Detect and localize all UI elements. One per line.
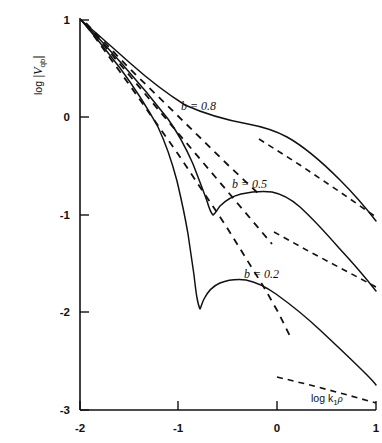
y-tick-marks [80, 20, 89, 410]
y-tick-label-0: 0 [64, 111, 70, 123]
x-axis-title: log k1ρ [311, 392, 343, 407]
curve-label-b08: b = 0.8 [181, 99, 216, 113]
y-axis-title-tail: | [31, 55, 45, 58]
curve-label-b02: b = 0.2 [244, 267, 279, 281]
figure-container: 1 0 -1 -2 -3 -2 -1 0 1 log |Vqb| log k1ρ [0, 0, 382, 443]
x-axis-title-tail: ρ [337, 393, 343, 404]
curve-b05 [81, 20, 376, 291]
curve-annotations: b = 0.8 b = 0.5 b = 0.2 [181, 99, 279, 281]
asymptote-steep-b05-path [86, 24, 272, 244]
asymptote-flat-b05-path [274, 232, 376, 287]
y-tick-label-m2: -2 [60, 306, 70, 318]
y-tick-label-1: 1 [64, 14, 71, 26]
x-tick-label-0: 0 [274, 422, 280, 434]
y-tick-label-m3: -3 [60, 404, 70, 416]
y-axis-title: log |Vqb| [31, 55, 47, 95]
x-axis-title-text: log k1ρ [311, 392, 343, 407]
x-axis-title-prefix: log k [311, 392, 334, 404]
asymptote-flat-b08-path [259, 139, 376, 217]
curve-b02 [81, 20, 376, 385]
y-axis-title-text: log |Vqb| [31, 55, 47, 95]
curve-b08 [81, 20, 376, 221]
x-tick-labels: -2 -1 0 1 [75, 422, 380, 434]
axis-group [80, 18, 376, 410]
y-tick-labels: 1 0 -1 -2 -3 [60, 14, 71, 416]
plot-svg: 1 0 -1 -2 -3 -2 -1 0 1 log |Vqb| log k1ρ [0, 0, 382, 443]
x-tick-label-m1: -1 [173, 422, 184, 434]
x-tick-label-m2: -2 [75, 422, 85, 434]
curve-label-b05: b = 0.5 [232, 177, 267, 191]
y-axis-title-prefix: log [32, 78, 44, 95]
y-tick-label-m1: -1 [60, 209, 71, 221]
x-tick-label-1: 1 [373, 422, 380, 434]
